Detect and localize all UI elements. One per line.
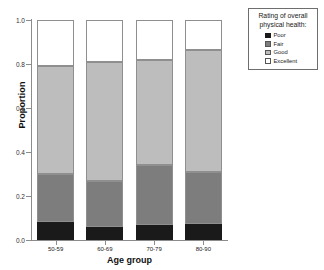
bar-60-69 bbox=[86, 20, 123, 240]
stacked-bar-chart-figure: Proportion 0.00.20.40.60.81.0 50-5960-69… bbox=[0, 0, 324, 270]
bar-segment-fair bbox=[185, 172, 222, 224]
bar-70-79 bbox=[136, 20, 173, 240]
legend: Rating of overall physical health: PoorF… bbox=[248, 8, 318, 70]
bar-segment-good bbox=[185, 50, 222, 172]
x-axis-title: Age group bbox=[31, 255, 228, 265]
bar-segment-poor bbox=[136, 225, 173, 240]
y-axis-tick-label: 0.0 bbox=[0, 237, 25, 244]
legend-title-line-2: physical health: bbox=[253, 21, 313, 30]
x-axis-tick-label-50-59: 50-59 bbox=[34, 246, 78, 252]
bar-segment-poor bbox=[37, 222, 74, 240]
bar-segment-good bbox=[136, 60, 173, 166]
bar-segment-excellent bbox=[185, 20, 222, 50]
bar-segment-fair bbox=[86, 181, 123, 227]
bar-segment-fair bbox=[136, 165, 173, 224]
x-axis-tick bbox=[154, 241, 155, 245]
bar-segment-fair bbox=[37, 174, 74, 222]
y-axis-tick-label: 0.6 bbox=[0, 105, 25, 112]
x-axis-line bbox=[31, 240, 228, 241]
legend-label-good: Good bbox=[274, 49, 288, 55]
y-axis-tick-label: 0.4 bbox=[0, 149, 25, 156]
plot-area bbox=[31, 20, 228, 240]
legend-swatch-fair-icon bbox=[265, 41, 271, 47]
legend-swatch-excellent-icon bbox=[265, 58, 271, 64]
bar-segment-excellent bbox=[136, 20, 173, 60]
legend-label-excellent: Excellent bbox=[274, 58, 298, 64]
legend-items: PoorFairGoodExcellent bbox=[253, 31, 313, 65]
legend-item-fair[interactable]: Fair bbox=[265, 40, 313, 49]
legend-title-line-1: Rating of overall bbox=[253, 12, 313, 21]
legend-title: Rating of overall physical health: bbox=[253, 12, 313, 29]
x-axis-tick bbox=[203, 241, 204, 245]
legend-label-poor: Poor bbox=[274, 32, 286, 38]
bar-segment-excellent bbox=[86, 20, 123, 62]
legend-label-fair: Fair bbox=[274, 41, 284, 47]
bar-segment-good bbox=[86, 62, 123, 181]
bar-segment-excellent bbox=[37, 20, 74, 66]
x-axis-tick-label-60-69: 60-69 bbox=[83, 246, 127, 252]
bar-segment-poor bbox=[86, 227, 123, 240]
legend-item-excellent[interactable]: Excellent bbox=[265, 57, 313, 66]
bar-80-90 bbox=[185, 20, 222, 240]
x-axis-tick-label-80-90: 80-90 bbox=[181, 246, 225, 252]
legend-item-poor[interactable]: Poor bbox=[265, 31, 313, 40]
y-axis-tick-label: 1.0 bbox=[0, 17, 25, 24]
x-axis-tick bbox=[105, 241, 106, 245]
legend-swatch-poor-icon bbox=[265, 33, 271, 39]
y-axis-tick-label: 0.2 bbox=[0, 193, 25, 200]
legend-item-good[interactable]: Good bbox=[265, 48, 313, 57]
bar-50-59 bbox=[37, 20, 74, 240]
y-axis-tick-label: 0.8 bbox=[0, 61, 25, 68]
x-axis-tick-label-70-79: 70-79 bbox=[132, 246, 176, 252]
bar-segment-poor bbox=[185, 224, 222, 241]
x-axis-tick bbox=[56, 241, 57, 245]
legend-swatch-good-icon bbox=[265, 50, 271, 56]
bar-segment-good bbox=[37, 66, 74, 174]
